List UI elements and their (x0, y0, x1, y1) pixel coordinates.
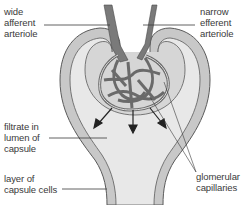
glomerular-capillaries-label: glomerular capillaries (196, 171, 240, 193)
afferent-arteriole-label: wide afferent arteriole (4, 6, 37, 39)
capsule-cells-label: layer of capsule cells (4, 173, 57, 195)
efferent-arteriole-label: narrow efferent arteriole (200, 6, 233, 39)
filtrate-label: filtrate in lumen of capsule (4, 121, 40, 154)
nephron-diagram: wide afferent arteriole narrow efferent … (0, 0, 250, 205)
